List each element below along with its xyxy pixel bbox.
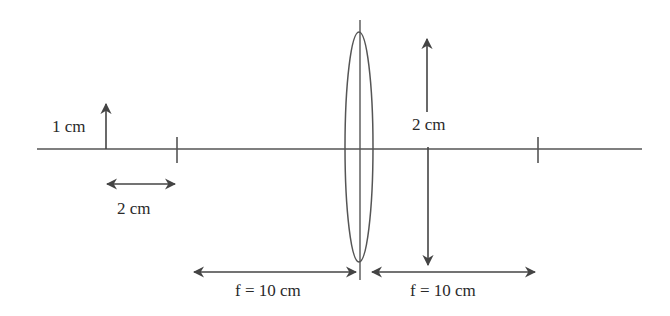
object-distance-label: 2 cm [117, 199, 151, 218]
object-height-label: 1 cm [52, 117, 86, 136]
focal-length-left-label: f = 10 cm [235, 281, 301, 300]
image-height-label: 2 cm [412, 115, 446, 134]
focal-length-right-label: f = 10 cm [410, 281, 476, 300]
convex-lens [345, 32, 373, 262]
lens-diagram: 1 cm 2 cm 2 cm f = 10 cm f = 10 cm [0, 0, 670, 316]
